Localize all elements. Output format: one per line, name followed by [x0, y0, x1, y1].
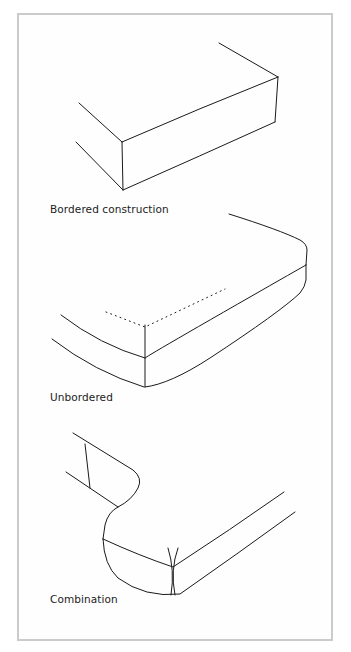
combination-drawing	[66, 433, 295, 595]
unbordered-drawing	[52, 214, 307, 387]
label-bordered-construction: Bordered construction	[50, 203, 169, 215]
cushion-drawings	[0, 0, 351, 652]
label-unbordered: Unbordered	[50, 391, 113, 403]
label-combination: Combination	[50, 593, 118, 605]
bordered-construction-drawing	[76, 43, 278, 190]
